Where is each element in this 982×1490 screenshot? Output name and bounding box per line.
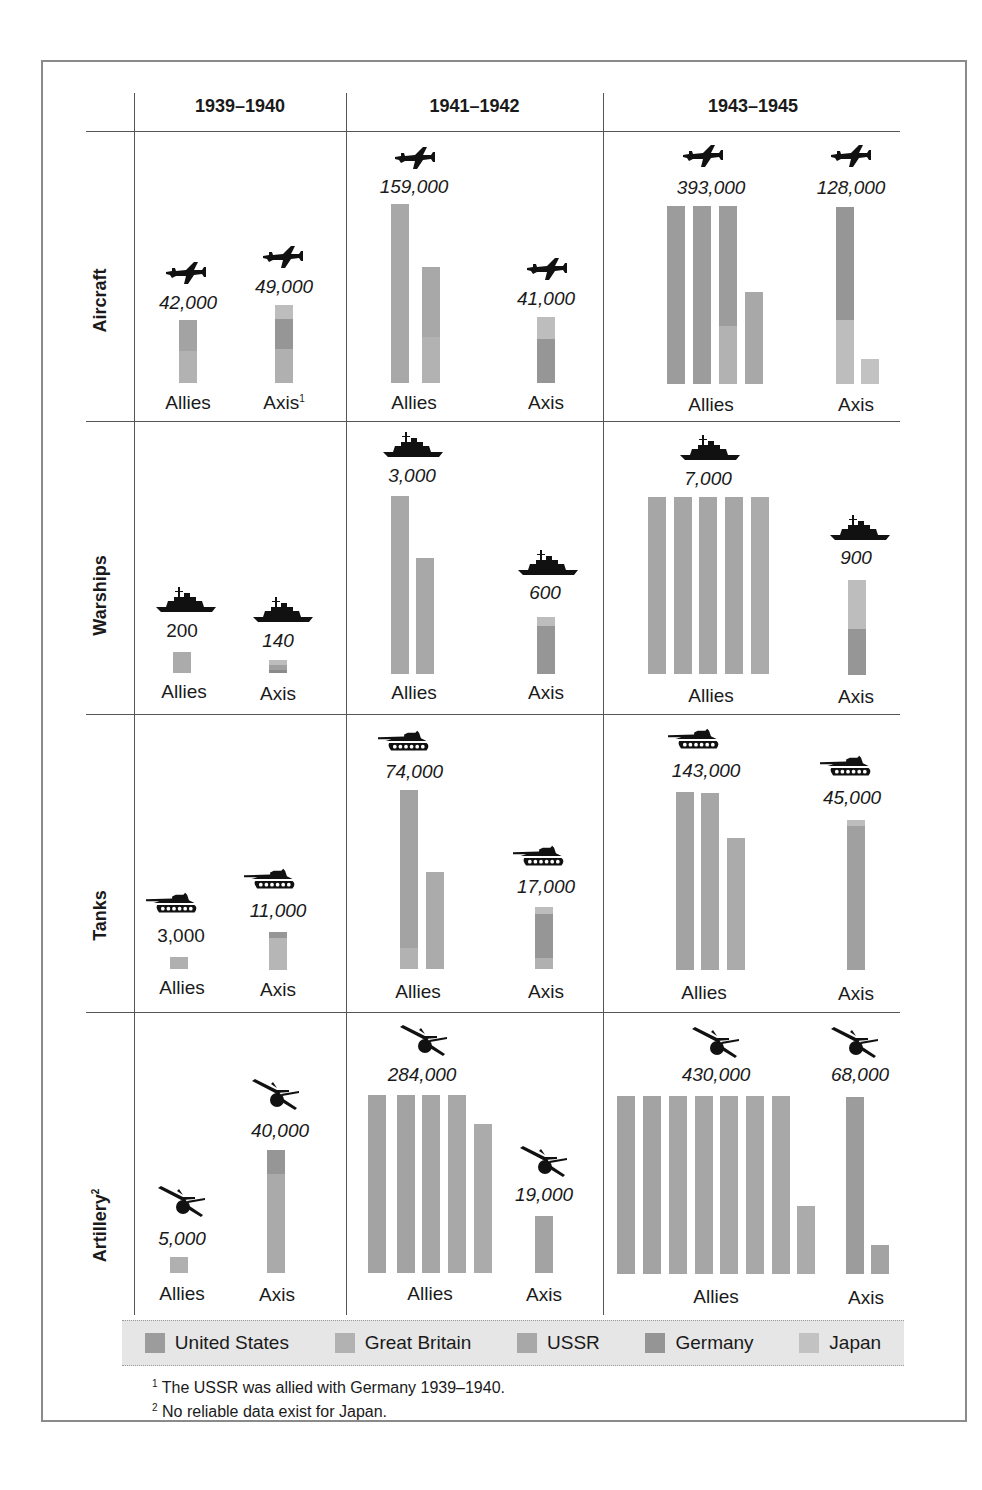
bar-aircraft-1939-allies	[179, 320, 197, 383]
label-axis: Axis1	[263, 392, 304, 414]
bar-artillery-1941-allies-col4	[448, 1095, 466, 1273]
col-divider-1	[346, 93, 347, 1315]
bar-tanks-1939-axis	[269, 932, 287, 970]
value-warships-1941-allies: 3,000	[388, 465, 436, 487]
period-header-1941: 1941–1942	[346, 96, 603, 117]
bar-artillery-1943-allies-col6	[746, 1096, 764, 1274]
bar-warships-1941-axis	[537, 617, 555, 674]
bar-tanks-1943-allies-col3	[727, 838, 745, 970]
artillery-icon	[398, 1024, 450, 1060]
bar-aircraft-1941-allies-col2	[422, 267, 440, 383]
value-tanks-1939-axis: 11,000	[250, 900, 307, 922]
bar-warships-1943-allies-col4	[725, 497, 743, 674]
period-header-1943: 1943–1945	[603, 96, 903, 117]
label-allies: Allies	[159, 1283, 204, 1305]
legend-label: USSR	[547, 1332, 600, 1354]
bar-artillery-1943-allies-col7	[772, 1096, 790, 1274]
legend-label: United States	[175, 1332, 289, 1354]
artillery-icon	[250, 1078, 302, 1114]
bar-artillery-1939-axis	[267, 1150, 285, 1273]
period-header-1939: 1939–1940	[134, 96, 346, 117]
bar-artillery-1943-allies-col1	[617, 1096, 635, 1274]
value-artillery-1941-allies: 284,000	[388, 1064, 457, 1086]
legend: United States Great Britain USSR Germany…	[122, 1320, 904, 1366]
bar-artillery-1941-allies-col3	[422, 1095, 440, 1273]
value-aircraft-1939-axis: 49,000	[255, 276, 313, 298]
bar-aircraft-1943-axis-col2	[861, 359, 879, 384]
bar-tanks-1943-allies-col2	[701, 793, 719, 970]
bar-artillery-1943-allies-col3	[669, 1096, 687, 1274]
tank-icon	[244, 866, 300, 894]
value-tanks-1943-allies: 143,000	[672, 760, 741, 782]
value-artillery-1939-axis: 40,000	[251, 1120, 309, 1142]
value-tanks-1943-axis: 45,000	[823, 787, 881, 809]
label-allies: Allies	[681, 982, 726, 1004]
aircraft-icon	[681, 143, 725, 171]
bar-warships-1939-axis	[269, 660, 287, 673]
tank-icon	[513, 843, 569, 871]
bar-artillery-1941-allies-col1	[368, 1095, 386, 1273]
bar-aircraft-1943-allies-col3	[719, 206, 737, 384]
legend-item-united-states: United States	[145, 1332, 289, 1354]
label-axis: Axis	[838, 983, 874, 1005]
legend-label: Japan	[829, 1332, 881, 1354]
bar-aircraft-1943-allies-col4	[745, 292, 763, 384]
warship-icon	[680, 433, 740, 461]
bar-artillery-1943-allies-col2	[643, 1096, 661, 1274]
value-artillery-1941-axis: 19,000	[515, 1184, 573, 1206]
bar-warships-1943-axis	[848, 580, 866, 675]
swatch-germany	[645, 1333, 665, 1353]
value-warships-1943-allies: 7,000	[684, 468, 732, 490]
col-divider-0	[134, 93, 135, 1315]
bar-artillery-1941-allies-col2	[397, 1095, 415, 1273]
warship-icon	[518, 548, 578, 576]
artillery-icon	[156, 1185, 208, 1221]
bar-aircraft-1941-axis	[537, 317, 555, 383]
row-divider-3	[86, 1012, 900, 1013]
aircraft-icon	[525, 256, 569, 284]
value-aircraft-1941-axis: 41,000	[517, 288, 575, 310]
bar-artillery-1943-axis-col2	[871, 1245, 889, 1274]
bar-tanks-1941-axis	[535, 907, 553, 969]
label-axis: Axis	[848, 1287, 884, 1309]
label-axis: Axis	[259, 1284, 295, 1306]
bar-warships-1943-allies-col3	[699, 497, 717, 674]
legend-item-japan: Japan	[799, 1332, 881, 1354]
value-tanks-1939-allies: 3,000	[157, 925, 205, 947]
label-axis: Axis	[260, 979, 296, 1001]
bar-artillery-1941-axis	[535, 1216, 553, 1273]
bar-artillery-1943-allies-col5	[720, 1096, 738, 1274]
swatch-united-states	[145, 1333, 165, 1353]
label-allies: Allies	[161, 681, 206, 703]
label-allies: Allies	[688, 394, 733, 416]
label-allies: Allies	[395, 981, 440, 1003]
row-label-artillery: Artillery2	[90, 1126, 111, 1326]
bar-tanks-1939-allies	[170, 957, 188, 969]
bar-artillery-1943-allies-col8	[797, 1206, 815, 1274]
tank-icon	[668, 726, 724, 754]
aircraft-icon	[829, 143, 873, 171]
bar-artillery-1943-axis-col1	[846, 1097, 864, 1274]
legend-item-great-britain: Great Britain	[335, 1332, 472, 1354]
label-axis: Axis	[528, 392, 564, 414]
swatch-japan	[799, 1333, 819, 1353]
bar-warships-1943-allies-col5	[751, 497, 769, 674]
value-aircraft-1943-allies: 393,000	[677, 177, 746, 199]
value-aircraft-1943-axis: 128,000	[817, 177, 886, 199]
label-axis: Axis	[528, 981, 564, 1003]
artillery-icon	[690, 1026, 742, 1062]
label-allies: Allies	[693, 1286, 738, 1308]
bar-artillery-1939-allies	[170, 1257, 188, 1273]
aircraft-icon	[393, 145, 437, 173]
bar-tanks-1943-axis	[847, 820, 865, 970]
bar-tanks-1943-allies-col1	[676, 792, 694, 970]
bar-warships-1939-allies	[173, 652, 191, 673]
label-axis: Axis	[526, 1284, 562, 1306]
value-tanks-1941-axis: 17,000	[517, 876, 575, 898]
header-divider	[86, 131, 900, 132]
legend-item-ussr: USSR	[517, 1332, 600, 1354]
artillery-icon	[829, 1026, 881, 1062]
value-tanks-1941-allies: 74,000	[385, 761, 443, 783]
label-allies: Allies	[165, 392, 210, 414]
bar-artillery-1941-allies-col5	[474, 1124, 492, 1273]
